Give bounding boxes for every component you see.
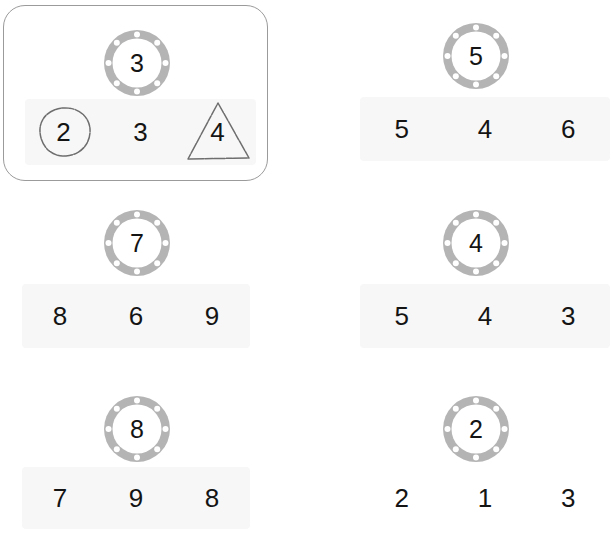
answer-choice-label: 9 <box>129 485 143 511</box>
prompt-value: 4 <box>438 205 514 281</box>
question-cell-2[interactable]: 5 5 4 6 <box>380 5 614 181</box>
answer-choice[interactable]: 2 <box>25 99 102 165</box>
answer-choice-label: 6 <box>129 303 143 329</box>
answer-choice-label: 3 <box>133 119 147 145</box>
gasket-ring-icon: 2 <box>438 391 514 467</box>
question-cell-6[interactable]: 2 2 1 3 <box>380 375 614 546</box>
answer-choice-label: 2 <box>394 485 408 511</box>
answer-choice-label: 5 <box>394 116 408 142</box>
gasket-ring-icon: 5 <box>438 18 514 94</box>
answer-choice-label: 5 <box>394 303 408 329</box>
question-cell-5[interactable]: 8 7 9 8 <box>3 375 268 546</box>
answer-choice[interactable]: 8 <box>174 467 250 529</box>
answer-choice-label: 3 <box>561 303 575 329</box>
answer-choice[interactable]: 4 <box>443 97 526 161</box>
answer-band: 7 9 8 <box>22 467 250 529</box>
answer-choice-label: 8 <box>53 303 67 329</box>
answer-choices: 8 6 9 <box>22 284 250 348</box>
answer-choice-label: 6 <box>561 116 575 142</box>
gasket-ring-icon: 3 <box>99 25 175 101</box>
answer-choice[interactable]: 3 <box>527 467 610 529</box>
prompt-value: 3 <box>99 25 175 101</box>
answer-choice-label: 4 <box>478 116 492 142</box>
answer-choice[interactable]: 8 <box>22 284 98 348</box>
answer-choice[interactable]: 2 <box>360 467 443 529</box>
answer-choice[interactable]: 6 <box>98 284 174 348</box>
answer-choice-label: 4 <box>210 119 224 145</box>
gasket-ring-icon: 7 <box>99 205 175 281</box>
answer-choice[interactable]: 3 <box>527 284 610 348</box>
question-cell-3[interactable]: 7 8 6 9 <box>3 190 268 366</box>
answer-choice-label: 2 <box>56 119 70 145</box>
prompt-value: 8 <box>99 391 175 467</box>
gasket-ring-icon: 4 <box>438 205 514 281</box>
answer-choice[interactable]: 5 <box>360 97 443 161</box>
answer-choices: 5 4 3 <box>360 284 610 348</box>
answer-choice-label: 9 <box>205 303 219 329</box>
prompt-value: 2 <box>438 391 514 467</box>
answer-choices: 5 4 6 <box>360 97 610 161</box>
answer-choices: 2 3 4 <box>25 99 256 165</box>
answer-choice-label: 3 <box>561 485 575 511</box>
answer-choice-label: 4 <box>478 303 492 329</box>
answer-band: 5 4 6 <box>360 97 610 161</box>
answer-choice[interactable]: 4 <box>443 284 526 348</box>
answer-band: 2 1 3 <box>360 467 610 529</box>
answer-choice-label: 1 <box>478 485 492 511</box>
answer-band: 8 6 9 <box>22 284 250 348</box>
prompt-value: 5 <box>438 18 514 94</box>
answer-choice[interactable]: 9 <box>98 467 174 529</box>
answer-choice[interactable]: 6 <box>527 97 610 161</box>
answer-choices: 2 1 3 <box>360 467 610 529</box>
answer-choice-label: 7 <box>53 485 67 511</box>
gasket-ring-icon: 8 <box>99 391 175 467</box>
answer-choice[interactable]: 4 <box>179 99 256 165</box>
answer-choices: 7 9 8 <box>22 467 250 529</box>
answer-choice[interactable]: 5 <box>360 284 443 348</box>
answer-choice[interactable]: 3 <box>102 99 179 165</box>
answer-choice[interactable]: 9 <box>174 284 250 348</box>
answer-band: 2 3 4 <box>25 99 256 165</box>
question-cell-1[interactable]: 3 2 3 <box>3 5 268 181</box>
prompt-value: 7 <box>99 205 175 281</box>
answer-choice-label: 8 <box>205 485 219 511</box>
answer-choice[interactable]: 1 <box>443 467 526 529</box>
answer-choice[interactable]: 7 <box>22 467 98 529</box>
question-cell-4[interactable]: 4 5 4 3 <box>380 190 614 366</box>
answer-band: 5 4 3 <box>360 284 610 348</box>
